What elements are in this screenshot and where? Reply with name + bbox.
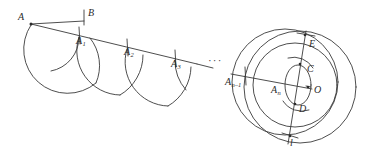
- label-point-An-1: An–1: [225, 77, 241, 87]
- label-point-A2: A2: [124, 47, 133, 57]
- ellipsis: ···: [208, 54, 223, 66]
- label-point-An: An: [271, 85, 280, 95]
- label-point-E: E: [309, 39, 315, 49]
- dot-O: [307, 86, 310, 89]
- label-point-O: O: [314, 85, 321, 95]
- segment-AB: [31, 21, 84, 24]
- arc-1-inner-stub: [51, 37, 79, 71]
- label-point-A1: A1: [76, 36, 85, 46]
- label-point-C: C: [307, 64, 314, 74]
- label-point-D: D: [299, 104, 306, 114]
- arc-3b: [168, 67, 191, 106]
- geometry-figure: A B A1 A2 A3 ··· An–1 An E C O D l: [0, 0, 376, 163]
- label-point-B: B: [88, 8, 94, 18]
- circle-third: [253, 43, 337, 127]
- label-point-A3: A3: [171, 59, 180, 69]
- point-dots: [30, 23, 310, 138]
- label-line-l: l: [290, 138, 293, 148]
- dot-D: [294, 103, 297, 106]
- label-point-A: A: [18, 12, 24, 22]
- dot-A: [30, 23, 33, 26]
- arc-2b: [120, 55, 143, 95]
- dot-E: [304, 34, 307, 37]
- tick-An-1: [245, 67, 246, 85]
- dot-C: [299, 63, 302, 66]
- figure-canvas: [0, 0, 376, 163]
- arc-1b: [90, 38, 100, 83]
